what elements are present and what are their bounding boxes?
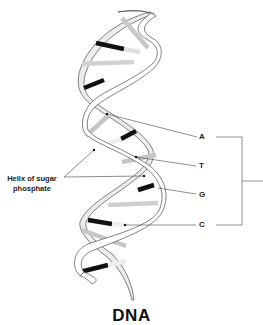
base-label-c: C xyxy=(199,220,205,229)
helix-label-line1: Helix of sugar xyxy=(4,174,60,184)
helix-label-line2: phosphate xyxy=(4,184,60,194)
base-label-t: T xyxy=(199,161,204,170)
helix-label: Helix of sugar phosphate xyxy=(4,174,60,194)
base-label-g: G xyxy=(199,190,205,199)
leader-dots xyxy=(93,113,145,226)
base-label-a: A xyxy=(199,132,205,141)
diagram-title: DNA xyxy=(0,306,263,325)
